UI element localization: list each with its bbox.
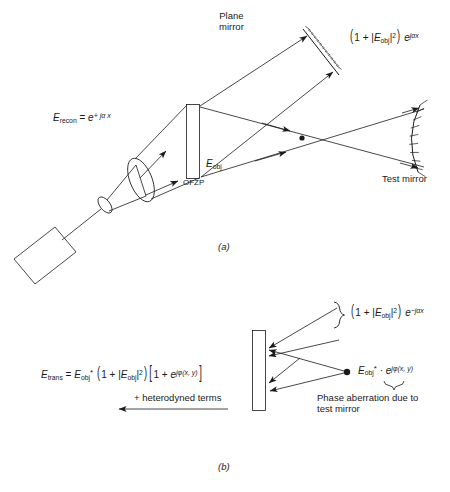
e-trans-mod-subscript: obj <box>127 374 136 381</box>
ofzp-element <box>187 105 200 179</box>
e-trans-bracket-exp-power: jφ(x, y) <box>176 369 198 376</box>
e-obj-symbol: E <box>206 158 213 169</box>
e-trans-equals: = <box>66 369 72 380</box>
heterodyne-label: + heterodyned terms <box>134 392 221 403</box>
plane-mirror-label-line1: Plane <box>219 10 243 21</box>
e-trans-bracket-one-plus: 1 + <box>154 369 168 380</box>
ray-ofzp-to-test-mirror-upper <box>200 107 424 167</box>
close-paren-b: ) <box>398 302 401 321</box>
e-recon-exp-power: + jα x <box>94 112 111 119</box>
e-subscript-b: obj <box>382 312 391 319</box>
ray-ofzp-to-test-mirror-lower <box>201 109 424 177</box>
e-trans-conj-symbol: E <box>74 369 81 380</box>
e-trans-conj-star: * <box>90 368 93 377</box>
e-recon-equals: = <box>79 112 85 123</box>
test-mirror <box>400 100 428 177</box>
e-symbol: E <box>374 32 381 43</box>
e-recon-symbol: E <box>53 112 60 123</box>
exp-power-b: −jαx <box>411 307 424 314</box>
phase-underbrace <box>384 381 404 390</box>
panel-b-caption: (b) <box>218 461 230 472</box>
e-trans-subscript: trans <box>48 374 63 381</box>
mod-exponent-b: 2 <box>393 307 397 314</box>
phase-note-line1: Phase aberration due to <box>317 392 418 403</box>
ofzp-element-b <box>253 331 266 411</box>
incident-brace <box>334 302 345 328</box>
e-trans-close-paren: ) <box>144 364 147 383</box>
point-dot-operator: · <box>380 365 383 376</box>
point-e-star: * <box>374 364 377 373</box>
e-trans-mod-exp: 2 <box>139 369 143 376</box>
reflected-field-formula: (1 + |Eobj|2) ejαx <box>349 27 419 46</box>
ray-ofzp-to-plane-mirror-upper <box>200 36 307 106</box>
point-field-formula: Eobj* · ejφ(x, y) <box>358 364 413 378</box>
plane-mirror-label: Plane mirror <box>219 10 244 32</box>
e-symbol-b: E <box>375 307 382 318</box>
e-trans-one-plus: 1 + | <box>101 369 121 380</box>
input-beam <box>62 209 101 240</box>
ray-point-to-plate-lower <box>270 373 344 391</box>
ray-incident-upper <box>269 308 337 348</box>
ray-point-to-plate-upper <box>269 350 344 371</box>
one-plus-text-b: 1 + | <box>355 307 375 318</box>
spatial-filter-lens <box>95 194 115 215</box>
ray-incident-lower <box>269 340 339 356</box>
phase-aberration-note: Phase aberration due to test mirror <box>317 392 418 414</box>
phase-note-line2: test mirror <box>317 403 360 414</box>
e-obj-label: Eobj <box>206 158 222 171</box>
point-e-symbol: E <box>358 365 365 376</box>
e-trans-conj-subscript: obj <box>81 374 90 381</box>
close-paren: ) <box>397 27 400 46</box>
e-trans-close-bracket: ] <box>199 361 202 383</box>
laser-source <box>14 227 76 284</box>
ofzp-label: OFZP <box>183 178 204 187</box>
mod-exponent: 2 <box>392 32 396 39</box>
panel-a-caption: (a) <box>218 241 230 252</box>
focus-point-dot <box>299 135 304 140</box>
plane-mirror-label-line2: mirror <box>219 21 244 32</box>
e-subscript: obj <box>381 37 390 44</box>
open-paren: ( <box>350 27 353 46</box>
point-source-dot <box>344 369 350 375</box>
e-recon-formula: Erecon = e+ jα x <box>53 112 111 125</box>
beam-expander-cone <box>107 165 146 211</box>
exp-power: jαx <box>410 32 419 39</box>
incident-field-formula: (1 + |Eobj|2) e−jαx <box>350 302 424 321</box>
test-mirror-label: Test mirror <box>382 173 427 184</box>
point-e-subscript: obj <box>365 369 374 376</box>
e-trans-open-bracket: [ <box>150 361 153 383</box>
e-recon-subscript: recon <box>60 117 77 124</box>
plane-mirror <box>303 26 342 75</box>
e-trans-formula: Etrans = Eobj* (1 + |Eobj|2)[1 + ejφ(x, … <box>41 361 203 383</box>
e-trans-symbol: E <box>41 369 48 380</box>
one-plus-text: 1 + | <box>354 32 374 43</box>
optical-figure: Plane mirror (1 + |Eobj|2) ejαx Erecon =… <box>0 0 450 492</box>
e-trans-open-paren: ( <box>97 364 100 383</box>
point-exp-power: jφ(x, y) <box>391 365 413 372</box>
ray-plate-lower-left <box>269 358 300 383</box>
e-obj-subscript: obj <box>213 163 222 170</box>
open-paren-b: ( <box>351 302 354 321</box>
